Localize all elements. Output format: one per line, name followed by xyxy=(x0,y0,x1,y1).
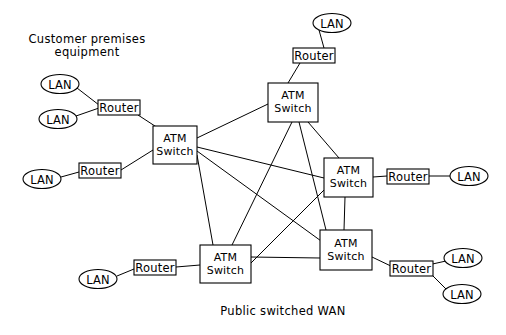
edge-switchleft-switchrightbottom xyxy=(197,151,328,246)
lan-label: LAN xyxy=(86,273,110,287)
network-diagram: LAN LAN LAN LAN LAN LAN xyxy=(0,0,506,335)
node-lan-3[interactable]: LAN xyxy=(23,170,61,189)
node-router-5[interactable]: Router xyxy=(390,261,433,276)
node-switch-right-bottom[interactable]: ATM Switch xyxy=(320,230,372,270)
lan-label: LAN xyxy=(30,173,54,187)
edge-lan1-router1 xyxy=(77,88,99,105)
router-label: Router xyxy=(80,164,119,178)
edge-switchtop-switchrightmiddle xyxy=(308,122,339,158)
atm-switch-label-line2: Switch xyxy=(327,250,365,263)
node-lan-4[interactable]: LAN xyxy=(313,14,351,33)
atm-switch-label-line2: Switch xyxy=(274,102,312,115)
node-router-6[interactable]: Router xyxy=(134,260,176,275)
atm-switch-label-line2: Switch xyxy=(156,145,194,158)
lan-label: LAN xyxy=(320,17,344,31)
node-router-4[interactable]: Router xyxy=(387,169,429,184)
node-lan-1[interactable]: LAN xyxy=(41,75,79,94)
atm-switch-label-line1: ATM xyxy=(163,132,186,145)
edge-lan4-router3 xyxy=(319,30,324,48)
edge-lan8-router6 xyxy=(117,269,134,276)
edge-switchleft-switchbottomleft xyxy=(197,155,213,245)
node-router-3[interactable]: Router xyxy=(293,48,335,63)
edge-switchrightmiddle-switchbottomleft xyxy=(251,190,324,263)
node-lan-8[interactable]: LAN xyxy=(79,270,117,289)
node-switch-bottom-left[interactable]: ATM Switch xyxy=(200,245,251,283)
node-lan-6[interactable]: LAN xyxy=(444,249,482,268)
atm-switch-label-line1: ATM xyxy=(281,89,304,102)
public-switched-wan-caption: Public switched WAN xyxy=(205,305,361,318)
lan-label: LAN xyxy=(451,252,475,266)
lan-label: LAN xyxy=(457,170,481,184)
edge-switchrightmiddle-switchrightbottom xyxy=(344,197,345,230)
router-label: Router xyxy=(392,262,431,276)
edge-router3-switchtop xyxy=(288,63,300,83)
edge-switchrightbottom-switchbottomleft xyxy=(251,257,320,258)
node-switch-left[interactable]: ATM Switch xyxy=(153,126,197,164)
router-label: Router xyxy=(99,101,138,115)
router-label: Router xyxy=(388,170,427,184)
lan-label: LAN xyxy=(48,78,72,92)
node-switch-right-middle[interactable]: ATM Switch xyxy=(324,158,373,197)
router-label: Router xyxy=(294,49,333,63)
lan-label: LAN xyxy=(450,288,474,302)
customer-premises-caption: Customer premises equipment xyxy=(24,33,150,59)
atm-switch-label-line1: ATM xyxy=(334,237,357,250)
node-lan-2[interactable]: LAN xyxy=(39,110,77,129)
edge-switchleft-switchtop xyxy=(197,104,268,138)
atm-switch-label-line1: ATM xyxy=(337,164,360,177)
node-router-1[interactable]: Router xyxy=(98,100,140,115)
edge-switchleft-switchrightmiddle xyxy=(197,147,324,178)
node-switch-top[interactable]: ATM Switch xyxy=(268,83,318,122)
lan-label: LAN xyxy=(46,113,70,127)
edge-switchrightmiddle-router4 xyxy=(373,176,387,177)
router-label: Router xyxy=(135,261,174,275)
edge-lan2-router1 xyxy=(76,108,99,116)
atm-switch-label-line2: Switch xyxy=(207,264,245,277)
node-lan-5[interactable]: LAN xyxy=(450,167,488,186)
edge-lan3-router2 xyxy=(61,172,79,177)
atm-switch-label-line1: ATM xyxy=(214,251,237,264)
edge-router6-switchbottomleft xyxy=(176,265,200,267)
atm-switch-label-line2: Switch xyxy=(330,177,368,190)
edge-router2-switchleft xyxy=(121,150,153,170)
node-lan-7[interactable]: LAN xyxy=(443,285,481,304)
node-router-2[interactable]: Router xyxy=(79,163,121,178)
edges-layer xyxy=(61,30,450,289)
